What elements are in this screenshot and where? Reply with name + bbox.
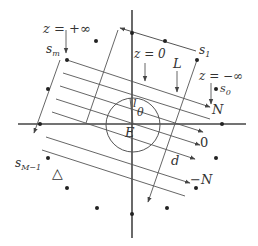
label-s-0: s0 — [220, 83, 231, 97]
diagram-root: z = +∞ sm z = 0 s1 L z = −∞ s0 N l θ E 0… — [0, 0, 258, 246]
s-M-minus-1-subscript: M−1 — [21, 163, 41, 172]
label-N-top: N — [212, 103, 223, 116]
s-0-subscript: 0 — [226, 88, 231, 97]
s-1-subscript: 1 — [205, 50, 210, 59]
label-minus-N: −N — [190, 173, 212, 186]
label-z-minus-infinity: z = −∞ — [199, 70, 243, 82]
label-l: l — [133, 98, 137, 109]
label-zero: 0 — [200, 136, 208, 149]
s-m-subscript: m — [52, 49, 60, 58]
left-slanted-arrow — [34, 60, 60, 133]
triangle-delta-icon: △ — [52, 166, 63, 180]
label-z-zero: z = 0 — [134, 48, 166, 60]
label-s-m: sm — [46, 43, 60, 58]
label-s-1: s1 — [199, 44, 210, 59]
label-z-plus-infinity: z = +∞ — [43, 22, 91, 35]
label-d: d — [171, 154, 179, 167]
label-s-M-minus-1: sM−1 — [15, 157, 41, 172]
label-theta: θ — [137, 107, 144, 118]
middle-slanted-line — [86, 30, 118, 123]
label-E: E — [125, 126, 135, 139]
label-L: L — [173, 57, 182, 70]
diagram-canvas — [0, 0, 258, 246]
